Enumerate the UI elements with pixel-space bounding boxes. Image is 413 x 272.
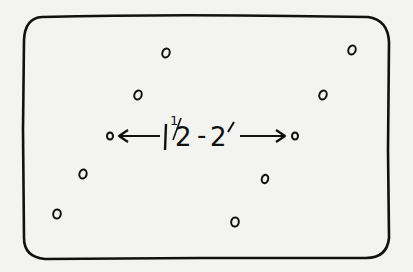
sketch-svg: 1 2 - 2 [0,0,413,272]
digit-one-stroke [165,124,166,150]
point-marker [230,217,239,227]
point-marker [107,132,113,139]
point-marker [347,44,357,55]
point-marker [133,89,143,100]
dimension-annotation: 1 2 - 2 [119,113,285,152]
feet-mark [228,122,234,132]
point-marker [261,174,269,184]
point-marker [292,132,298,139]
fraction-denominator: 2 [175,122,192,152]
point-marker [161,47,171,58]
dimension-dash: - [197,120,206,150]
point-marker [52,209,61,219]
point-marker [78,169,87,180]
point-marker [318,89,328,100]
diagram-canvas: 1 2 - 2 [0,0,413,272]
dimension-end-value: 2 [210,122,227,152]
